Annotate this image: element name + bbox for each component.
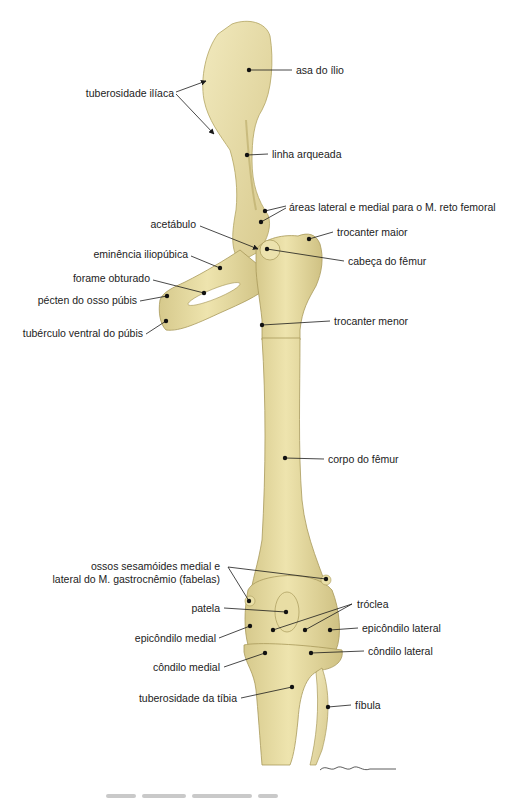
label-ossos-sesamoides-line1: ossos sesamóides medial e — [91, 560, 220, 572]
label-condilo-lateral: côndilo lateral — [368, 645, 433, 657]
label-troclea: tróclea — [357, 598, 389, 610]
label-ossos-sesamoides-line2: lateral do M. gastrocnêmio (fabelas) — [53, 573, 221, 585]
artist-signature — [320, 767, 396, 770]
label-corpo-do-femur: corpo do fêmur — [328, 453, 399, 465]
label-areas-reto-femoral: áreas lateral e medial para o M. reto fe… — [289, 201, 496, 213]
ilium-bone — [203, 21, 272, 262]
label-epicondilo-lateral: epicôndilo lateral — [362, 622, 441, 634]
label-pecten-osso-pubis: pécten do osso púbis — [38, 294, 137, 306]
label-tuberosidade-da-tibia: tuberosidade da tíbia — [139, 692, 237, 704]
pubis-bone — [159, 250, 266, 330]
label-tuberosidade-iliaca: tuberosidade ilíaca — [86, 87, 174, 99]
bone-illustration — [0, 0, 516, 798]
label-linha-arqueada: linha arqueada — [272, 148, 341, 160]
fibula-bone — [310, 668, 328, 765]
label-eminencia-iliopubica: eminência iliopúbica — [93, 248, 188, 260]
label-epicondilo-medial: epicôndilo medial — [135, 632, 216, 644]
tibia-bone — [244, 644, 342, 765]
label-condilo-medial: côndilo medial — [153, 661, 220, 673]
label-trocanter-menor: trocanter menor — [334, 315, 408, 327]
label-acetabulo: acetábulo — [150, 218, 196, 230]
label-cabeca-do-femur: cabeça do fêmur — [348, 255, 426, 267]
label-asa-do-ilio: asa do ílio — [296, 64, 344, 76]
label-forame-obturado: forame obturado — [73, 272, 150, 284]
femur-bone — [245, 234, 339, 658]
label-fibula: fíbula — [355, 699, 381, 711]
label-patela: patela — [191, 602, 220, 614]
label-trocanter-maior: trocanter maior — [337, 226, 408, 238]
label-tuberculo-ventral-pubis: tubérculo ventral do púbis — [23, 327, 143, 339]
anatomy-figure: asa do ílio tuberosidade ilíaca linha ar… — [0, 0, 516, 798]
